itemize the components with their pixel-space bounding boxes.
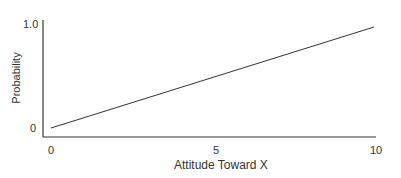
y-tick-1: 1.0 [23, 18, 38, 30]
y-tick-0: 0 [30, 122, 36, 134]
y-axis-label: Probability [10, 52, 22, 103]
chart-canvas [0, 0, 401, 178]
x-tick-10: 10 [370, 144, 382, 156]
x-axis-label: Attitude Toward X [174, 159, 268, 171]
probability-line [51, 27, 374, 128]
x-tick-0: 0 [48, 144, 54, 156]
x-tick-5: 5 [213, 144, 219, 156]
